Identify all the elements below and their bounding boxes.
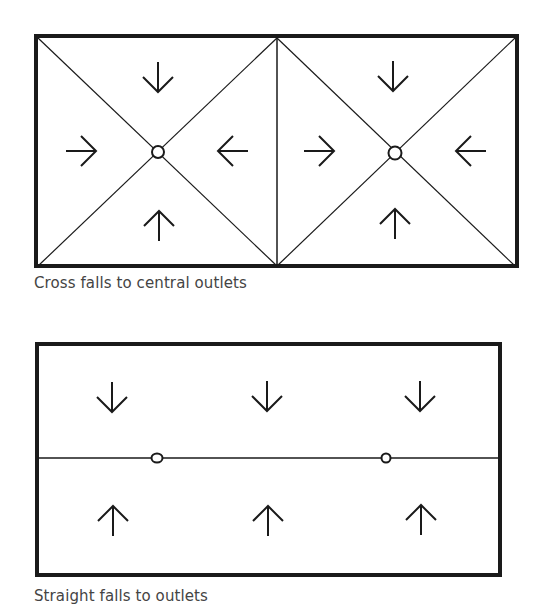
arrow-down-icon	[252, 381, 282, 411]
arrow-left-icon	[456, 136, 486, 166]
arrow-up-icon	[380, 209, 410, 239]
arrow-right-icon	[304, 136, 334, 166]
arrow-up-icon	[98, 506, 128, 536]
caption-cross-falls: Cross falls to central outlets	[34, 274, 247, 292]
arrow-up-icon	[144, 211, 174, 241]
outlet-icon	[152, 454, 163, 463]
arrow-down-icon	[97, 382, 127, 412]
arrow-up-icon	[253, 506, 283, 536]
arrow-down-icon	[143, 62, 173, 92]
cross-falls-diagram	[36, 36, 517, 266]
caption-straight-falls: Straight falls to outlets	[34, 587, 208, 605]
outlet-icon	[382, 454, 391, 463]
arrow-right-icon	[66, 136, 96, 166]
arrow-down-icon	[378, 61, 408, 91]
arrow-up-icon	[406, 505, 436, 535]
roof-outline	[37, 344, 500, 575]
arrow-down-icon	[405, 381, 435, 411]
outlet-icon	[389, 147, 402, 160]
outlet-icon	[152, 146, 164, 158]
straight-falls-diagram	[37, 344, 500, 575]
roof-drainage-diagrams	[0, 0, 542, 609]
arrow-left-icon	[218, 136, 248, 166]
